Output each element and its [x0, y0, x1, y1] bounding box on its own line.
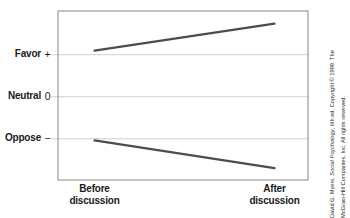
credit-line-1: David G. Myers, Social Psychology, 6th e…: [327, 22, 338, 218]
y-tick-favor-label: Favor: [0, 49, 41, 60]
plus-symbol: +: [41, 48, 54, 60]
x-tick-after-discussion: After discussion: [240, 183, 310, 206]
y-tick-neutral: Neutral 0: [0, 90, 54, 102]
oppose-group-line: [95, 140, 275, 168]
y-tick-neutral-label: Neutral: [0, 91, 41, 102]
x-tick-before-line2: discussion: [60, 195, 130, 207]
book-title: Social Psychology: [329, 129, 335, 175]
group-polarization-figure: Favor + Neutral 0 Oppose − Before discus…: [0, 0, 350, 218]
favor-group-line: [95, 24, 275, 51]
y-tick-favor: Favor +: [0, 48, 54, 60]
y-tick-oppose-label: Oppose: [0, 133, 41, 144]
zero-symbol: 0: [41, 90, 54, 102]
y-tick-oppose: Oppose −: [0, 132, 54, 144]
x-tick-after-line1: After: [240, 183, 310, 195]
x-tick-before-line1: Before: [60, 183, 130, 195]
x-tick-after-line2: discussion: [240, 195, 310, 207]
x-tick-before-discussion: Before discussion: [60, 183, 130, 206]
credit-line-2: McGraw-Hill Companies, Inc. All rights r…: [338, 22, 349, 218]
minus-symbol: −: [41, 132, 54, 144]
copyright-credit: David G. Myers, Social Psychology, 6th e…: [327, 22, 348, 218]
